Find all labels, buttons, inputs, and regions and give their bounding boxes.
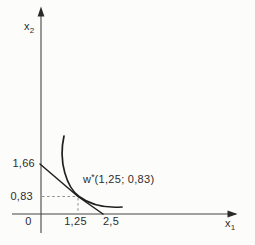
x-tick-label-1-25: 1,25 [61,215,90,228]
optimum-point-label-coords: (1,25; 0,83) [95,173,155,185]
y-tick-label-0-83: 0,83 [5,190,33,203]
plot-canvas [0,0,255,245]
indifference-curve-figure: x2 x1 1,66 0,83 0 1,25 2,5 w*(1,25; 0,83… [0,0,255,245]
y-tick-label-1-66: 1,66 [6,157,35,170]
optimum-point-label-base: w [83,173,91,185]
x-axis-label-subscript: 1 [231,223,235,232]
x-axis-label: x1 [225,217,235,230]
x-tick-label-2-5: 2,5 [100,215,122,228]
y-axis-label-subscript: 2 [30,26,34,35]
origin-label: 0 [23,215,34,228]
optimum-point-label: w*(1,25; 0,83) [83,173,154,186]
y-axis-arrow-icon [38,7,45,17]
y-axis-label: x2 [24,20,34,33]
